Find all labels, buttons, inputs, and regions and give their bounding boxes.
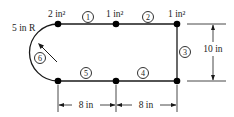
panel-number: 1: [86, 13, 90, 22]
panel-number: 5: [84, 69, 88, 78]
stringer-node-top-left: [55, 21, 62, 28]
height-dimension-label: 10 in: [203, 44, 223, 54]
panel-number: 3: [183, 48, 187, 57]
stringer-node-top-right: [174, 21, 181, 28]
stringer-node-top-middle: [113, 21, 120, 28]
panel-marker-1: 1: [83, 12, 94, 23]
span-right-label: 8 in: [139, 100, 154, 110]
arrow-left-icon: [59, 103, 65, 107]
arrow-right-icon: [171, 103, 177, 107]
panel-marker-2: 2: [143, 12, 154, 23]
stringer-node-bottom-middle: [113, 78, 120, 85]
area-label-top-right: 1 in²: [168, 9, 186, 19]
height-dimension: 10 in: [187, 24, 226, 81]
panel-marker-5: 5: [81, 68, 92, 79]
arrow-right-icon: [110, 103, 116, 107]
panel-number: 2: [146, 13, 150, 22]
arrow-left-icon: [117, 103, 123, 107]
area-label-top-middle: 1 in²: [106, 9, 124, 19]
panel-marker-4: 4: [138, 68, 149, 79]
span-dimensions: 8 in 8 in: [58, 85, 177, 112]
stringer-node-bottom-left: [55, 78, 62, 85]
shear-flow-diagram: 2 in² 1 in² 1 in² 5 in R 1 2 3 4 5 6 10 …: [0, 0, 234, 117]
arrow-down-icon: [211, 75, 215, 81]
span-left-label: 8 in: [79, 100, 94, 110]
panel-marker-3: 3: [180, 47, 191, 58]
panel-number: 6: [38, 54, 42, 63]
radius-label: 5 in R: [12, 23, 36, 33]
panel-marker-6: 6: [35, 53, 46, 64]
area-label-top-left: 2 in²: [48, 9, 66, 19]
arrow-up-icon: [211, 25, 215, 31]
stringer-node-bottom-right: [174, 78, 181, 85]
panel-number: 4: [141, 69, 145, 78]
